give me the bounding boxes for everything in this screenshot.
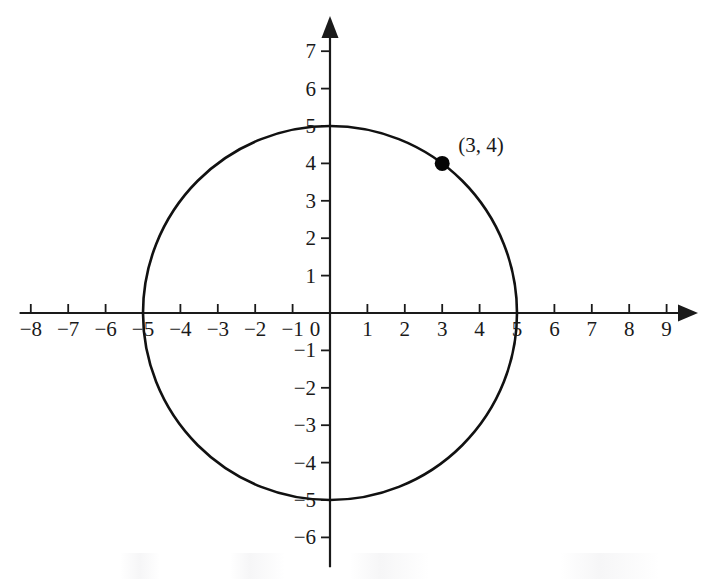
x-tick-label: −4 xyxy=(169,317,192,341)
x-tick-label: 5 xyxy=(512,317,523,341)
y-tick-label: −3 xyxy=(294,413,316,437)
x-tick-label: 1 xyxy=(362,317,373,341)
x-tick-label: 9 xyxy=(661,317,672,341)
y-tick-label: 2 xyxy=(306,226,317,250)
x-tick-label: −3 xyxy=(207,317,229,341)
y-tick-label: 6 xyxy=(306,77,317,101)
x-tick-label: −1 xyxy=(281,317,303,341)
x-tick-label: −2 xyxy=(244,317,266,341)
y-tick-label: −2 xyxy=(294,376,316,400)
y-tick-label: 5 xyxy=(306,114,317,138)
y-tick-label: −4 xyxy=(294,451,317,475)
x-tick-label: −8 xyxy=(20,317,42,341)
y-axis-ticks xyxy=(321,51,330,537)
x-tick-label: 2 xyxy=(400,317,411,341)
y-tick-label: 1 xyxy=(306,264,317,288)
graph-canvas: −8−7−6−5−4−3−2−1123456789 7654321−1−2−3−… xyxy=(0,0,708,579)
x-tick-label: −7 xyxy=(57,317,79,341)
x-axis-tick-labels: −8−7−6−5−4−3−2−1123456789 xyxy=(20,317,672,341)
x-axis-ticks xyxy=(31,304,667,313)
y-tick-label: 3 xyxy=(306,189,317,213)
y-tick-label: 7 xyxy=(306,39,317,63)
x-tick-label: 4 xyxy=(474,317,485,341)
y-tick-label: −5 xyxy=(294,488,316,512)
origin-label: 0 xyxy=(310,317,321,341)
x-axis-arrow-icon xyxy=(678,305,698,322)
x-tick-label: 3 xyxy=(437,317,448,341)
x-tick-label: 6 xyxy=(549,317,560,341)
y-tick-label: −6 xyxy=(294,525,316,549)
x-tick-label: −6 xyxy=(94,317,116,341)
data-point-marker xyxy=(435,156,450,171)
y-axis-tick-labels: 7654321−1−2−3−4−5−6 xyxy=(294,39,317,549)
data-point-label: (3, 4) xyxy=(458,133,504,157)
x-tick-label: −5 xyxy=(132,317,154,341)
y-axis-arrow-icon xyxy=(322,16,339,38)
x-tick-label: 8 xyxy=(624,317,635,341)
y-tick-label: 4 xyxy=(306,151,317,175)
coordinate-plane-figure: −8−7−6−5−4−3−2−1123456789 7654321−1−2−3−… xyxy=(0,0,708,579)
x-tick-label: 7 xyxy=(587,317,598,341)
y-tick-label: −1 xyxy=(294,338,316,362)
